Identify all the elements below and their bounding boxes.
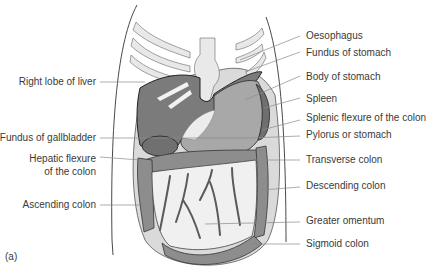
label-transverse-colon: Transverse colon [306,154,382,165]
label-hepatic-flexure-line1: Hepatic flexure [29,153,96,164]
panel-label: (a) [5,251,17,262]
gallbladder [142,136,178,156]
label-greater-omentum: Greater omentum [306,215,384,226]
abdominal-anatomy-diagram: Right lobe of liver Fundus of gallbladde… [0,0,430,275]
label-fundus-of-gallbladder: Fundus of gallbladder [0,132,97,143]
label-fundus-of-stomach: Fundus of stomach [306,47,391,58]
label-sigmoid-colon: Sigmoid colon [306,238,369,249]
label-hepatic-flexure-line2: of the colon [44,166,96,177]
label-ascending-colon: Ascending colon [23,199,96,210]
greater-omentum [152,160,257,250]
label-right-lobe-of-liver: Right lobe of liver [19,76,97,87]
label-splenic-flexure: Splenic flexure of the colon [306,112,426,123]
label-spleen: Spleen [306,93,337,104]
label-body-of-stomach: Body of stomach [306,71,380,82]
label-oesophagus: Oesophagus [306,30,363,41]
label-descending-colon: Descending colon [306,180,386,191]
label-pylorus: Pylorus or stomach [306,129,392,140]
